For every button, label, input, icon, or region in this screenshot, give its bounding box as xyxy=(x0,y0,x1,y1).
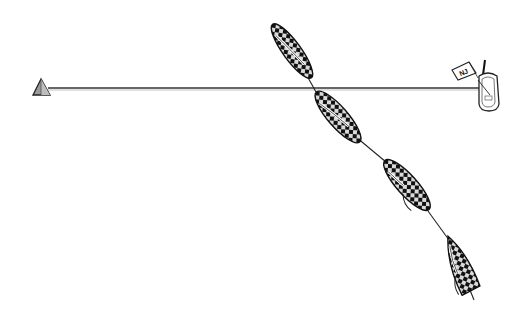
boat-position-2 xyxy=(309,86,367,149)
boat-position-4 xyxy=(436,232,480,296)
start-diagram: NJ xyxy=(0,0,518,326)
start-line xyxy=(48,88,480,90)
boat-position-3 xyxy=(374,154,436,219)
boat-position-1 xyxy=(265,19,318,83)
flag-icon: NJ xyxy=(452,62,478,80)
pin-mark-icon xyxy=(33,79,50,95)
committee-boat-icon: NJ xyxy=(452,60,499,111)
